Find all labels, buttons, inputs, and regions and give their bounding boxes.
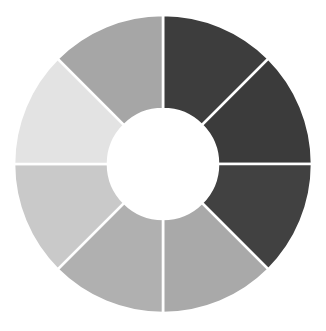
donut-center-hole xyxy=(108,109,218,219)
donut-chart-svg xyxy=(0,0,326,331)
donut-chart xyxy=(0,0,326,331)
